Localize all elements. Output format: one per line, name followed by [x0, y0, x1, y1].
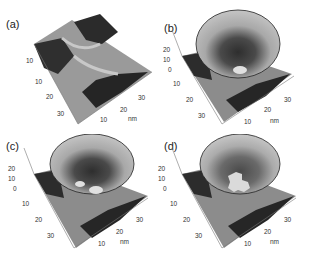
x-tick-b-10: 10: [244, 118, 251, 125]
x-tick-b-20: 20: [264, 106, 271, 113]
x-tick-c-20: 20: [116, 228, 123, 235]
y-tick-b-30: 30: [198, 112, 205, 119]
x-tick-d-20: 20: [264, 228, 271, 235]
z-tick-d-20: 20: [158, 165, 165, 172]
surface-plot-b: [156, 0, 312, 133]
z-tick-b-10: 10: [163, 56, 170, 63]
x-tick-d-30: 30: [284, 216, 291, 223]
x-tick-b-30: 30: [284, 96, 291, 103]
y-tick-a-20: 20: [46, 93, 53, 100]
z-tick-d-10: 10: [158, 175, 165, 182]
y-tick-c-30: 30: [47, 232, 54, 239]
y-tick-d-30: 30: [195, 232, 202, 239]
z-tick-c-0: 0: [13, 185, 17, 192]
y-tick-a-10: 10: [35, 78, 42, 85]
axis-unit-c: nm: [120, 238, 129, 245]
x-tick-a-20: 20: [120, 106, 127, 113]
axis-unit-b: nm: [270, 117, 279, 124]
z-tick-c-10: 10: [8, 175, 15, 182]
y-tick-b-10: 10: [173, 80, 180, 87]
z-tick-d-0: 0: [163, 185, 167, 192]
panel-b: (b) 20 10 0 10 20 30 10 20 30 nm: [156, 0, 312, 133]
z-tick-a-10: 10: [26, 57, 33, 64]
x-tick-a-30: 30: [138, 94, 145, 101]
x-tick-c-10: 10: [98, 240, 105, 247]
axis-unit-a: nm: [128, 115, 137, 122]
z-tick-b-20: 20: [163, 46, 170, 53]
y-tick-d-20: 20: [183, 216, 190, 223]
y-tick-c-20: 20: [35, 216, 42, 223]
x-tick-a-10: 10: [100, 116, 107, 123]
z-tick-b-0: 0: [168, 66, 172, 73]
surface-plot-d: [156, 134, 312, 267]
y-tick-c-10: 10: [22, 200, 29, 207]
y-tick-a-30: 30: [57, 110, 64, 117]
y-tick-d-10: 10: [170, 200, 177, 207]
x-tick-c-30: 30: [136, 216, 143, 223]
panel-d: (d) 20 10 0 10 20 30 10 20 30 nm: [156, 134, 312, 267]
axis-unit-d: nm: [270, 238, 279, 245]
panel-a: (a) 10 10 20 30 10 20 30 nm: [0, 0, 156, 133]
surface-plot-a: [0, 0, 156, 133]
x-tick-d-10: 10: [244, 240, 251, 247]
z-tick-c-20: 20: [8, 165, 15, 172]
y-tick-b-20: 20: [186, 96, 193, 103]
panel-c: (c) 20 10 0 10 20 30 10 20 30 nm: [0, 134, 156, 267]
